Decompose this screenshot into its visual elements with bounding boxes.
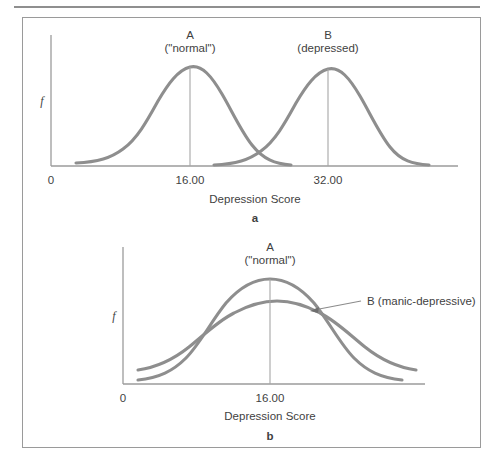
x-axis-title-a: Depression Score: [209, 193, 300, 205]
curve-label-b-a-line2: ("normal"): [245, 254, 296, 266]
callout-leader-line: [314, 301, 361, 310]
figure-frame: A ("normal") B (depressed) f 0 16.00 32.…: [22, 17, 481, 448]
callout-label-manic-depressive: B (manic-depressive): [367, 295, 476, 307]
chart-panel-a: A ("normal") B (depressed) f 0 16.00 32.…: [23, 18, 482, 228]
figure-root: A ("normal") B (depressed) f 0 16.00 32.…: [0, 0, 494, 464]
panel-letter-a: a: [252, 212, 259, 224]
chart-panel-b: B (manic-depressive) A ("normal") f 0 16…: [23, 227, 482, 447]
curve-label-a-line1: A: [186, 29, 194, 41]
panel-letter-b: b: [266, 430, 273, 442]
curve-label-a-line2: ("normal"): [165, 42, 216, 54]
curve-label-b-line2: (depressed): [297, 42, 359, 54]
top-divider-rule: [14, 6, 480, 8]
y-axis-label-b: f: [112, 309, 117, 323]
x-origin-label-b: 0: [120, 392, 126, 404]
x-tick-label-a-16: 16.00: [176, 174, 205, 186]
curve-b-manic-depressive: [138, 301, 416, 370]
x-axis-title-b: Depression Score: [224, 410, 315, 422]
y-axis-label-a: f: [40, 94, 45, 108]
curve-label-b-a-line1: A: [266, 241, 274, 253]
curve-a-normal: [76, 67, 291, 165]
x-tick-label-a-32: 32.00: [314, 174, 343, 186]
x-tick-label-b-16: 16.00: [256, 392, 285, 404]
curve-label-b-line1: B: [324, 29, 332, 41]
x-origin-label-a: 0: [48, 174, 54, 186]
curve-b-depressed: [214, 69, 429, 165]
